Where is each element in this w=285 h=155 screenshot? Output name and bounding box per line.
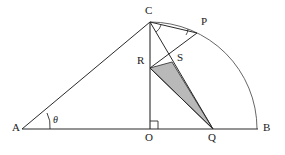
geometry-figure: A B O C P Q R S θ	[0, 0, 285, 155]
label-point-b: B	[263, 122, 270, 133]
label-point-s: S	[177, 52, 183, 63]
geometry-canvas	[0, 0, 285, 155]
label-point-a: A	[12, 122, 20, 133]
segment-ac	[22, 22, 150, 129]
label-point-p: P	[201, 16, 207, 27]
label-angle-theta: θ	[53, 115, 58, 125]
label-point-o: O	[145, 132, 153, 143]
label-point-r: R	[137, 55, 144, 66]
shaded-triangle-rsq	[150, 62, 213, 129]
angle-arc-c	[156, 25, 161, 32]
angle-arc-p	[186, 29, 188, 35]
angle-arc-theta-a	[47, 113, 50, 129]
label-point-c: C	[145, 5, 152, 16]
label-point-q: Q	[208, 132, 216, 143]
right-angle-mark-o	[150, 121, 158, 129]
